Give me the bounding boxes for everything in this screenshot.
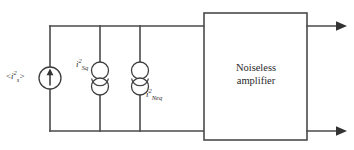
equivalent-noise-subscript: Neq [152, 94, 162, 101]
arrow-right-icon-top [336, 21, 347, 31]
arrow-right-icon-bottom [336, 126, 347, 136]
shot-noise-label: i2Sq [76, 60, 88, 69]
noise-source-1-circle-top [92, 62, 109, 79]
amplifier-label: Noiseless amplifier [204, 62, 308, 87]
source-noise-close-bracket: > [19, 71, 24, 81]
source-noise-label: <i2s> [6, 72, 24, 81]
shot-noise-subscript: Sq [82, 64, 89, 71]
noise-source-1-circle-bottom [92, 78, 109, 95]
circuit-diagram-figure: <i2s> i2Sq i2Neq Noiseless amplifier [0, 0, 354, 150]
noise-source-2-circle-top [132, 62, 149, 79]
equivalent-noise-label: i2Neq [146, 90, 162, 99]
